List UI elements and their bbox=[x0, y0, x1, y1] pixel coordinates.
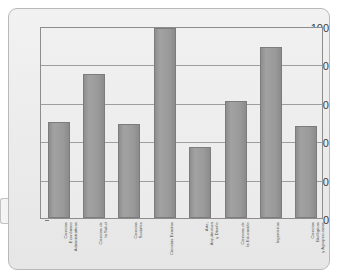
x-category-label-3: Ciencias Exactas bbox=[169, 222, 174, 274]
x-category-label-5: Ciencias de la Educación bbox=[240, 222, 250, 274]
x-category-label-6: Ingenierías bbox=[275, 222, 280, 274]
bar-ciencias-exactas[interactable] bbox=[154, 28, 176, 218]
bar-ingenierias[interactable] bbox=[260, 47, 282, 218]
bar-ciencias-sociales[interactable] bbox=[118, 124, 140, 218]
plot-top-border bbox=[41, 27, 323, 28]
bar-arte-arquitectura-y-diseno[interactable] bbox=[189, 147, 211, 218]
plot-right-border bbox=[322, 27, 323, 218]
bar-ciencias-de-la-salud[interactable] bbox=[83, 74, 105, 218]
x-category-label-2: Ciencias Sociales bbox=[133, 222, 143, 274]
plot-area bbox=[40, 27, 323, 219]
x-category-label-0: Ciencias Económico Administrativas bbox=[63, 222, 78, 274]
x-category-label-7: Ciencias Biológicas y Agropecuarias bbox=[310, 222, 325, 274]
bar-ciencias-economico-administrativas[interactable] bbox=[48, 122, 70, 218]
bar-ciencias-biologicas-y-agropecuarias[interactable] bbox=[295, 126, 317, 218]
y-tick-mark-0 bbox=[45, 220, 49, 221]
x-category-label-4: Arte, Arquitectura y Diseño bbox=[204, 222, 219, 274]
x-category-label-1: Ciencias de la Salud bbox=[98, 222, 108, 274]
bar-ciencias-de-la-educacion[interactable] bbox=[225, 101, 247, 218]
chart-figure: 100 80 60 40 20 0 Ciencias Económico Adm… bbox=[0, 0, 338, 277]
